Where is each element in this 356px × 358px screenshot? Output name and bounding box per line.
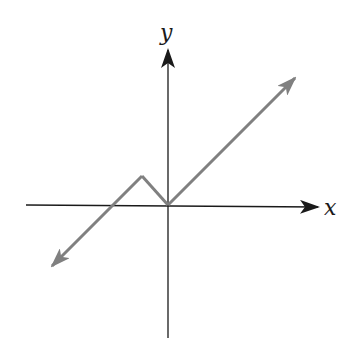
coordinate-plane: y x <box>0 0 356 358</box>
graph-right-branch <box>168 78 295 205</box>
x-axis <box>26 205 318 207</box>
x-axis-label: x <box>324 195 337 220</box>
y-axis-label: y <box>159 20 173 45</box>
graph-left-branch <box>52 176 142 266</box>
graph-vertex-segment <box>142 176 168 205</box>
